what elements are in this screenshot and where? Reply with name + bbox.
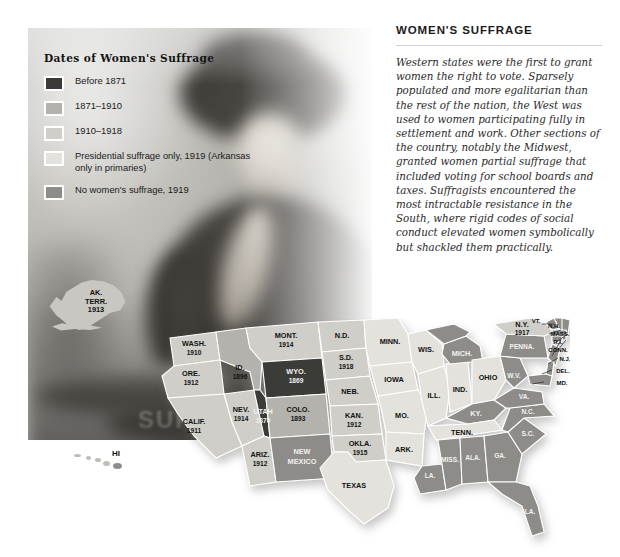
label-indiana: IND. xyxy=(453,385,468,394)
hawaii-island-1 xyxy=(74,454,81,457)
legend-swatch-presidential-suffrage xyxy=(44,151,64,166)
label-idaho-year: 1896 xyxy=(233,373,248,380)
label-oregon-year: 1912 xyxy=(184,379,199,386)
label-wyoming: WYO. xyxy=(286,367,305,376)
state-maryland[interactable] xyxy=(528,374,552,386)
label-west-virginia: W.V. xyxy=(507,372,520,379)
legend-title: Dates of Women's Suffrage xyxy=(44,52,254,64)
label-delaware: DEL. xyxy=(556,368,570,374)
label-texas: TEXAS xyxy=(342,481,366,490)
label-new-mexico-line2: MEXICO xyxy=(288,457,317,466)
label-iowa: IOWA xyxy=(384,375,404,384)
state-louisiana[interactable] xyxy=(414,464,446,494)
label-missouri: MO. xyxy=(395,411,409,420)
label-california-year: 1911 xyxy=(187,427,202,434)
alaska-label: AK. TERR. 1913 xyxy=(74,289,118,315)
label-new-hampshire: N.H. xyxy=(548,323,560,329)
legend-item-before-1871[interactable]: Before 1871 xyxy=(44,75,254,91)
label-arizona-year: 1912 xyxy=(253,460,268,467)
label-illinois: ILL. xyxy=(428,391,441,400)
label-south-dakota-year: 1918 xyxy=(339,363,354,370)
state-kansas[interactable] xyxy=(330,404,382,436)
label-oklahoma: OKLA. xyxy=(349,439,372,448)
legend-swatch-1871-1910 xyxy=(44,101,64,116)
hawaii-island-3 xyxy=(95,458,101,462)
label-nevada-year: 1914 xyxy=(234,415,249,422)
alaska-inset[interactable]: AK. TERR. 1913 xyxy=(48,272,132,338)
legend-item-presidential-suffrage[interactable]: Presidential suffrage only, 1919 (Arkans… xyxy=(44,150,254,175)
label-pennsylvania: PENNA. xyxy=(510,343,535,350)
label-maryland: MD. xyxy=(557,380,568,386)
label-utah-year: 1870 xyxy=(256,417,271,424)
hawaii-inset[interactable]: HI xyxy=(72,442,138,478)
label-oklahoma-year: 1915 xyxy=(353,449,368,456)
label-oregon: ORE. xyxy=(182,369,200,378)
label-georgia: GA. xyxy=(494,452,506,459)
label-nebraska: NEB. xyxy=(341,387,358,396)
label-new-york: N.Y. xyxy=(515,320,528,329)
label-alabama: ALA. xyxy=(465,454,481,461)
label-washington: WASH. xyxy=(182,339,206,348)
label-rhode-island: R.I. xyxy=(553,339,563,345)
legend-label-before-1871: Before 1871 xyxy=(75,75,126,87)
label-south-dakota: S.D. xyxy=(339,353,353,362)
title-divider xyxy=(396,45,602,46)
label-kansas: KAN. xyxy=(345,411,363,420)
label-wisconsin: WIS. xyxy=(418,345,434,354)
label-louisiana: LA. xyxy=(425,472,436,479)
label-virginia: VA. xyxy=(519,393,530,400)
page-title: WOMEN'S SUFFRAGE xyxy=(396,24,602,36)
label-kentucky: KY. xyxy=(470,409,481,418)
hawaii-island-4 xyxy=(103,461,110,466)
label-ohio: OHIO xyxy=(479,373,498,382)
label-wyoming-year: 1869 xyxy=(289,377,304,384)
article-column: WOMEN'S SUFFRAGE Western states were the… xyxy=(396,24,602,254)
label-florida: FLA. xyxy=(521,508,536,515)
label-new-jersey: N.J. xyxy=(559,356,570,362)
label-nevada: NEV. xyxy=(233,405,249,414)
label-new-york-year: 1917 xyxy=(515,329,530,336)
label-massachusetts: MASS. xyxy=(550,331,569,337)
legend-label-1910-1918: 1910–1918 xyxy=(75,125,122,137)
label-michigan: MICH. xyxy=(452,349,473,358)
label-tennessee: TENN. xyxy=(451,428,473,437)
us-suffrage-map[interactable]: WASH. 1910 ORE. 1912 CALIF. 1911 NEV. 19… xyxy=(150,318,570,556)
legend-label-presidential-suffrage: Presidential suffrage only, 1919 (Arkans… xyxy=(75,150,254,175)
label-utah: UTAH xyxy=(253,407,273,416)
label-montana-year: 1914 xyxy=(279,341,294,348)
label-connecticut: CONN. xyxy=(548,347,568,353)
article-body-text: Western states were the first to grant w… xyxy=(396,55,602,254)
label-colorado-year: 1893 xyxy=(291,415,306,422)
label-south-carolina: S.C. xyxy=(522,430,535,437)
map-legend: Dates of Women's Suffrage Before 1871 18… xyxy=(44,52,254,209)
legend-swatch-1910-1918 xyxy=(44,126,64,141)
label-north-carolina: N.C. xyxy=(521,408,534,415)
label-minnesota: MINN. xyxy=(380,337,401,346)
label-california: CALIF. xyxy=(183,417,206,426)
hawaii-label: HI xyxy=(112,449,120,458)
legend-swatch-no-suffrage xyxy=(44,185,64,200)
label-kansas-year: 1912 xyxy=(347,421,362,428)
label-montana: MONT. xyxy=(275,331,298,340)
legend-item-no-suffrage[interactable]: No women's suffrage, 1919 xyxy=(44,184,254,200)
legend-item-1910-1918[interactable]: 1910–1918 xyxy=(44,125,254,141)
legend-label-1871-1910: 1871–1910 xyxy=(75,100,122,112)
label-washington-year: 1910 xyxy=(187,349,202,356)
label-vermont: VT. xyxy=(532,318,541,324)
alaska-label-line3: 1913 xyxy=(74,306,118,315)
label-arkansas: ARK. xyxy=(395,445,413,454)
label-arizona: ARIZ. xyxy=(250,450,269,459)
state-florida[interactable] xyxy=(488,482,544,536)
label-north-dakota: N.D. xyxy=(335,331,350,340)
label-mississippi: MISS. xyxy=(441,456,459,463)
label-new-mexico-line1: NEW xyxy=(293,447,310,456)
label-colorado: COLO. xyxy=(286,405,309,414)
label-idaho: ID. xyxy=(235,363,244,372)
hawaii-island-5 xyxy=(113,463,122,469)
legend-swatch-before-1871 xyxy=(44,76,64,91)
hawaii-island-2 xyxy=(86,456,91,460)
legend-label-no-suffrage: No women's suffrage, 1919 xyxy=(75,184,189,196)
legend-item-1871-1910[interactable]: 1871–1910 xyxy=(44,100,254,116)
